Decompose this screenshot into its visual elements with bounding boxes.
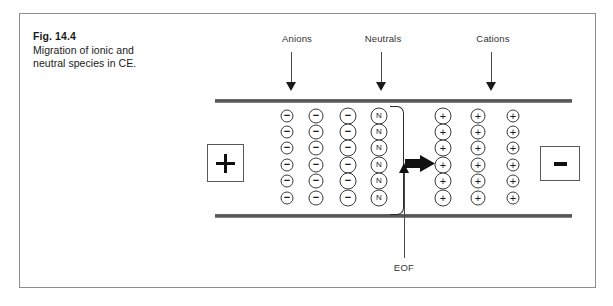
cation-glyph: + — [440, 175, 446, 186]
anion-glyph: − — [345, 158, 351, 169]
cation-glyph: + — [510, 126, 516, 137]
anion-particle: − — [309, 174, 324, 189]
cation-glyph: + — [510, 192, 516, 203]
anion-glyph: − — [284, 141, 290, 152]
anion-particle: − — [340, 190, 357, 207]
cation-particle: + — [435, 190, 452, 207]
neutrals-bracket — [390, 106, 404, 215]
anion-glyph: − — [345, 191, 351, 202]
down-arrow-icon-cations — [486, 82, 496, 91]
cation-particle: + — [507, 126, 520, 139]
cation-glyph: + — [440, 110, 446, 121]
capillary-wall-top — [215, 99, 572, 103]
cation-particle: + — [435, 173, 452, 190]
plus-icon — [216, 154, 235, 173]
cation-glyph: + — [510, 159, 516, 170]
cation-glyph: + — [475, 175, 481, 186]
anion-particle: − — [281, 159, 294, 172]
neutral-glyph: N — [376, 194, 382, 202]
anion-particle: − — [281, 110, 294, 123]
neutral-particle: N — [371, 124, 388, 141]
cation-particle: + — [507, 175, 520, 188]
minus-icon — [554, 162, 567, 166]
anion-glyph: − — [284, 158, 290, 169]
label-neutrals: Neutrals — [365, 33, 402, 44]
anion-glyph: − — [313, 141, 319, 152]
anion-particle: − — [281, 175, 294, 188]
cation-glyph: + — [475, 110, 481, 121]
label-anions: Anions — [282, 33, 312, 44]
anion-particle: − — [340, 124, 357, 141]
cation-glyph: + — [440, 192, 446, 203]
figure-canvas: Fig. 14.4 Migration of ionic and neutral… — [0, 0, 613, 306]
anion-glyph: − — [313, 174, 319, 185]
down-arrow-icon-anions — [286, 82, 296, 91]
anion-glyph: − — [284, 125, 290, 136]
cation-particle: + — [471, 141, 486, 156]
anion-particle: − — [309, 141, 324, 156]
cation-glyph: + — [475, 126, 481, 137]
anion-particle: − — [340, 157, 357, 174]
neutral-particle: N — [371, 173, 388, 190]
cation-particle: + — [471, 158, 486, 173]
down-arrow-icon-neutrals — [376, 82, 386, 91]
cation-particle: + — [507, 159, 520, 172]
cation-glyph: + — [440, 159, 446, 170]
neutral-glyph: N — [376, 161, 382, 169]
caption-title: Fig. 14.4 — [33, 30, 193, 44]
anion-glyph: − — [345, 141, 351, 152]
neutral-particle: N — [371, 157, 388, 174]
anion-particle: − — [340, 140, 357, 157]
anion-glyph: − — [313, 158, 319, 169]
anion-glyph: − — [345, 109, 351, 120]
anion-glyph: − — [284, 174, 290, 185]
anion-particle: − — [309, 125, 324, 140]
neutral-glyph: N — [376, 112, 382, 120]
cation-particle: + — [435, 124, 452, 141]
neutral-particle: N — [371, 140, 388, 157]
caption-line-1: Migration of ionic and — [33, 44, 193, 58]
cation-particle: + — [471, 191, 486, 206]
cation-glyph: + — [440, 126, 446, 137]
right-block-arrow-icon — [405, 155, 435, 172]
caption-line-2: neutral species in CE. — [33, 57, 193, 71]
leader-line-neutrals — [381, 52, 382, 82]
anion-particle: − — [281, 142, 294, 155]
neutral-glyph: N — [376, 128, 382, 136]
cation-particle: + — [507, 192, 520, 205]
cation-particle: + — [435, 108, 452, 125]
negative-electrode — [540, 146, 580, 181]
cation-glyph: + — [510, 110, 516, 121]
cation-glyph: + — [510, 142, 516, 153]
cation-particle: + — [507, 142, 520, 155]
cation-glyph: + — [475, 142, 481, 153]
anion-particle: − — [309, 191, 324, 206]
cation-glyph: + — [510, 175, 516, 186]
cation-particle: + — [471, 174, 486, 189]
neutral-particle: N — [371, 108, 388, 125]
neutral-particle: N — [371, 190, 388, 207]
anion-glyph: − — [313, 191, 319, 202]
anion-particle: − — [309, 158, 324, 173]
cation-particle: + — [507, 110, 520, 123]
cation-particle: + — [471, 109, 486, 124]
anion-particle: − — [340, 108, 357, 125]
anion-glyph: − — [345, 125, 351, 136]
neutral-glyph: N — [376, 177, 382, 185]
up-arrow-icon-eof — [399, 163, 409, 173]
anion-glyph: − — [345, 174, 351, 185]
anion-glyph: − — [284, 191, 290, 202]
cation-particle: + — [435, 140, 452, 157]
label-eof: EOF — [394, 262, 414, 273]
cation-glyph: + — [475, 159, 481, 170]
leader-line-cations — [491, 52, 492, 82]
anion-particle: − — [340, 173, 357, 190]
cation-glyph: + — [440, 142, 446, 153]
anion-glyph: − — [313, 109, 319, 120]
label-cations: Cations — [476, 33, 509, 44]
eof-leader-line — [404, 170, 405, 258]
anion-particle: − — [309, 109, 324, 124]
cation-particle: + — [435, 157, 452, 174]
neutral-glyph: N — [376, 144, 382, 152]
anion-glyph: − — [284, 109, 290, 120]
